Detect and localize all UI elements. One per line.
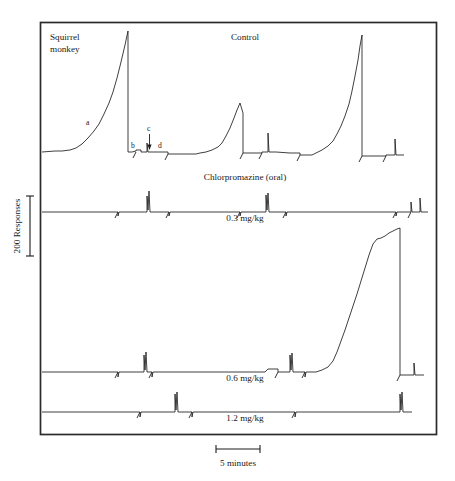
x-axis-scale-group: 5 minutes xyxy=(216,445,260,468)
figure-root: 200 Responses 5 minutes Squirrel monkey … xyxy=(0,0,455,481)
annotation-b: b xyxy=(131,141,135,150)
trace-line-dose-0-3 xyxy=(42,191,428,216)
event-ticks-dose-1-2 xyxy=(137,412,295,418)
event-tick xyxy=(115,372,118,378)
x-axis-scale-label: 5 minutes xyxy=(220,458,256,468)
event-tick xyxy=(189,412,192,418)
event-tick xyxy=(283,212,286,218)
dose-label-0-3: 0.3 mg/kg xyxy=(226,213,264,223)
condition-label-control: Control xyxy=(231,32,260,42)
event-tick xyxy=(408,212,411,218)
event-tick xyxy=(393,212,396,218)
event-tick xyxy=(165,154,168,160)
event-tick xyxy=(275,372,278,378)
y-axis-label: 200 Responses xyxy=(12,198,22,253)
trace-panel-dose-0-6 xyxy=(42,228,424,377)
trace-panel-control xyxy=(42,31,404,156)
subject-label-line2: monkey xyxy=(50,44,80,54)
event-tick xyxy=(302,372,305,378)
event-tick xyxy=(397,375,400,381)
trace-line-dose-0-6 xyxy=(42,228,424,377)
event-ticks-control xyxy=(133,152,386,162)
annotation-d: d xyxy=(158,141,162,150)
dose-label-1-2: 1.2 mg/kg xyxy=(226,413,264,423)
trace-panel-dose-0-3 xyxy=(42,191,428,216)
event-tick xyxy=(240,153,243,159)
drug-label: Chlorpromazine (oral) xyxy=(204,172,286,182)
subject-label-line1: Squirrel xyxy=(50,32,80,42)
event-tick xyxy=(115,212,118,218)
event-tick xyxy=(383,156,386,162)
event-tick xyxy=(133,152,136,158)
dose-label-0-6: 0.6 mg/kg xyxy=(226,373,264,383)
event-tick xyxy=(149,372,152,378)
trace-line-control xyxy=(42,31,404,156)
annotation-a: a xyxy=(86,118,90,127)
event-tick xyxy=(297,155,300,161)
y-axis-scale-group: 200 Responses xyxy=(12,196,34,256)
event-tick xyxy=(137,412,140,418)
event-tick xyxy=(166,212,169,218)
event-tick xyxy=(259,153,262,159)
event-tick xyxy=(359,156,362,162)
annotation-c: c xyxy=(147,124,151,133)
cumulative-record-figure: 200 Responses 5 minutes Squirrel monkey … xyxy=(0,0,455,481)
event-tick xyxy=(292,412,295,418)
